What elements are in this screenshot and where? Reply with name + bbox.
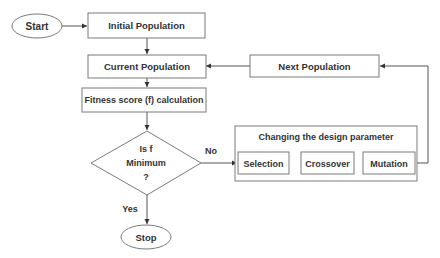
current-population-label: Current Population [104, 61, 190, 72]
current-population-node: Current Population [88, 55, 206, 78]
edge-label-no: No [205, 146, 217, 156]
stop-label: Stop [135, 232, 156, 243]
fitness-label: Fitness score (f) calculation [84, 95, 203, 105]
decision-line1: Is f [139, 144, 153, 154]
initial-population-label: Initial Population [108, 20, 185, 31]
initial-population-node: Initial Population [88, 13, 205, 38]
start-label: Start [26, 21, 49, 32]
stop-node: Stop [121, 225, 171, 249]
crossover-node: Crossover [301, 152, 354, 174]
mutation-label: Mutation [370, 159, 408, 169]
group-label: Changing the design parameter [258, 132, 394, 142]
start-node: Start [12, 14, 62, 38]
edge-label-yes: Yes [122, 204, 138, 214]
decision-line2: Minimum [126, 158, 166, 168]
next-population-node: Next Population [250, 55, 379, 77]
selection-label: Selection [243, 159, 283, 169]
fitness-node: Fitness score (f) calculation [82, 88, 206, 112]
next-population-label: Next Population [278, 61, 351, 72]
selection-node: Selection [238, 152, 289, 174]
crossover-label: Crossover [305, 159, 350, 169]
decision-line3: ? [143, 172, 149, 182]
mutation-node: Mutation [363, 152, 415, 174]
flowchart-canvas: Start Initial Population Current Populat… [0, 0, 440, 258]
decision-node: Is f Minimum ? [91, 131, 201, 195]
